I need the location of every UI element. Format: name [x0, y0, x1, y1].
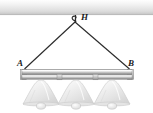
ceiling-beam	[0, 0, 153, 15]
light-fixture-diagram	[0, 0, 153, 113]
label-a: A	[17, 59, 23, 68]
label-h: H	[81, 13, 88, 22]
cable-right	[75, 22, 130, 69]
horizontal-fixture-bar	[22, 70, 132, 80]
lamp-shade-center	[58, 80, 94, 109]
lamp-shade-left	[23, 80, 59, 109]
ceiling-hook-icon	[72, 15, 76, 22]
suspension-cables	[25, 22, 130, 69]
label-b: B	[128, 59, 134, 68]
bar-collar-left	[57, 74, 62, 79]
bar-collar-right	[93, 74, 98, 79]
lamp-shade-right	[94, 80, 130, 109]
cable-left	[25, 22, 76, 69]
figure-canvas: H A B	[0, 0, 153, 113]
